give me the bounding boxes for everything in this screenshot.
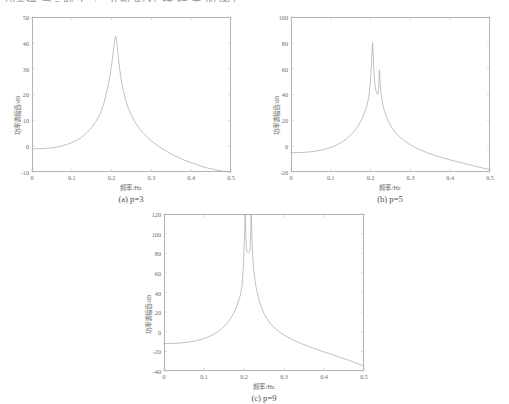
plot-b-y-axis-title: 功率谱幅值/dB <box>272 96 281 135</box>
figure-c: 功率谱幅值/dB 120 100 80 60 40 20 0 -20 -40 0… <box>128 205 383 403</box>
plot-a-ytick-50: 50 <box>12 14 29 21</box>
plot-b-ytick-0: 0 <box>269 143 288 150</box>
plot-a-xtick-03: 0.3 <box>143 174 159 181</box>
plot-b-x-axis-title: 频率/Hz <box>360 183 420 192</box>
plot-c-curve <box>128 205 383 383</box>
plot-c-xtick-04: 0.4 <box>316 373 332 380</box>
figure-a: 功率谱幅值/dB 50 40 30 20 10 0 -10 0 0.1 0.2 … <box>0 8 250 203</box>
plot-a-x-axis-title: 频率/Hz <box>101 183 161 192</box>
plot-b-xtick-02: 0.2 <box>363 174 379 181</box>
plot-c-xtick-03: 0.3 <box>276 373 292 380</box>
plot-c-ytick-0: 0 <box>141 329 161 336</box>
plot-b-xtick-0: 0 <box>283 174 299 181</box>
plot-a-xtick-04: 0.4 <box>183 174 199 181</box>
plot-b-xtick-01: 0.1 <box>323 174 339 181</box>
plot-c-xtick-01: 0.1 <box>196 373 212 380</box>
plot-c-ytick-100: 100 <box>141 231 161 238</box>
plot-c-ytick-60: 60 <box>141 270 161 277</box>
plot-c-ytick-neg20: -20 <box>141 348 161 355</box>
plot-a: 功率谱幅值/dB 50 40 30 20 10 0 -10 0 0.1 0.2 … <box>0 8 250 183</box>
plot-b-ytick-40: 40 <box>269 91 288 98</box>
plot-a-y-axis-title: 功率谱幅值/dB <box>13 96 22 135</box>
plot-b: 功率谱幅值/dB 100 80 60 40 20 0 -20 0 0.1 0.2… <box>259 8 509 183</box>
plot-c-xtick-02: 0.2 <box>236 373 252 380</box>
plot-a-xtick-05: 0.5 <box>223 174 239 181</box>
plot-a-ytick-40: 40 <box>12 40 29 47</box>
plot-c: 功率谱幅值/dB 120 100 80 60 40 20 0 -20 -40 0… <box>128 205 383 383</box>
plot-c-ytick-120: 120 <box>141 211 161 218</box>
figure-page: 功率谱 当 p 取 3、5、9 时 的 估 计 结 果 如 图 所 示 。 功率… <box>0 0 509 404</box>
plot-b-xtick-04: 0.4 <box>442 174 458 181</box>
plot-c-xtick-05: 0.5 <box>356 373 372 380</box>
cutoff-text-fragment: 功率谱 当 p 取 3、5、9 时 的 估 计 结 果 如 图 所 示 。 <box>4 0 236 2</box>
plot-b-ytick-100: 100 <box>269 14 288 21</box>
plot-a-ytick-20: 20 <box>12 91 29 98</box>
plot-a-ytick-0: 0 <box>12 143 29 150</box>
figure-a-caption: (a) p=3 <box>81 194 181 204</box>
plot-a-ytick-10: 10 <box>12 117 29 124</box>
plot-c-ytick-20: 20 <box>141 309 161 316</box>
plot-b-ytick-20: 20 <box>269 117 288 124</box>
figure-c-caption: (c) p=9 <box>214 393 314 403</box>
figure-b: 功率谱幅值/dB 100 80 60 40 20 0 -20 0 0.1 0.2… <box>259 8 509 203</box>
plot-a-xtick-02: 0.2 <box>104 174 120 181</box>
plot-a-ytick-30: 30 <box>12 66 29 73</box>
plot-a-curve <box>0 8 250 183</box>
plot-b-curve <box>259 8 509 183</box>
plot-c-ytick-80: 80 <box>141 250 161 257</box>
figure-b-caption: (b) p=5 <box>340 194 440 204</box>
plot-c-ytick-40: 40 <box>141 290 161 297</box>
plot-c-xtick-0: 0 <box>156 373 172 380</box>
plot-b-ytick-60: 60 <box>269 66 288 73</box>
plot-b-xtick-05: 0.5 <box>482 174 498 181</box>
plot-a-xtick-0: 0 <box>24 174 40 181</box>
plot-b-ytick-80: 80 <box>269 40 288 47</box>
plot-a-xtick-01: 0.1 <box>64 174 80 181</box>
plot-c-x-axis-title: 频率/Hz <box>234 382 294 391</box>
plot-b-xtick-03: 0.3 <box>402 174 418 181</box>
